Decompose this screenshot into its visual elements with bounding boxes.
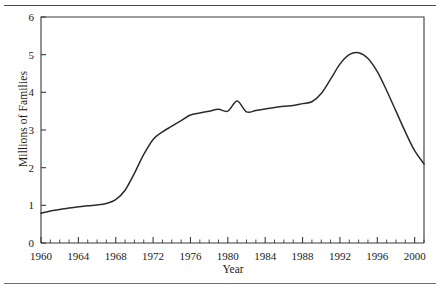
y-tick-label: 2 [29, 162, 35, 174]
x-tick-label: 1968 [105, 250, 128, 262]
x-tick-label: 1972 [142, 250, 164, 262]
x-axis-title: Year [41, 263, 425, 275]
x-tick-label: 1996 [366, 250, 389, 262]
y-axis-title: Millions of Families [17, 34, 29, 204]
line-chart: 0123456 19601964196819721976198019841988… [0, 0, 440, 293]
y-tick-label: 6 [29, 11, 35, 23]
x-tick-label: 1960 [30, 250, 53, 262]
y-tick-label: 3 [29, 124, 35, 136]
plot-frame [41, 17, 424, 243]
y-tick-label: 1 [29, 199, 35, 211]
plot-border [41, 17, 424, 243]
x-tick-label: 1976 [179, 250, 202, 262]
x-tick-label: 1964 [67, 250, 90, 262]
y-tick-label: 4 [29, 86, 35, 98]
series-line-families [41, 53, 424, 214]
x-tick-label: 1984 [254, 250, 277, 262]
x-tick-label: 2000 [404, 250, 427, 262]
x-tick-label: 1992 [329, 250, 351, 262]
x-tick-label: 1988 [292, 250, 315, 262]
figure-container: 0123456 19601964196819721976198019841988… [0, 0, 440, 293]
data-series-group [41, 53, 424, 214]
y-tick-label: 0 [29, 237, 35, 249]
y-tick-label: 5 [29, 49, 35, 61]
x-axis-ticks: 1960196419681972197619801984198819921996… [30, 237, 426, 262]
x-tick-label: 1980 [217, 250, 240, 262]
